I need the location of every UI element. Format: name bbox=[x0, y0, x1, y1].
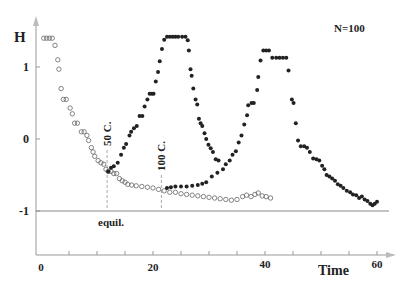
data-point-filled bbox=[185, 185, 189, 189]
data-point-open bbox=[156, 187, 160, 191]
data-point-open bbox=[68, 106, 72, 110]
data-point-filled bbox=[122, 146, 126, 150]
data-point-open bbox=[224, 197, 228, 201]
data-point-filled bbox=[242, 123, 246, 127]
x-tick-label: 20 bbox=[148, 261, 160, 273]
data-point-filled bbox=[179, 185, 183, 189]
y-axis-arrow-icon bbox=[33, 16, 39, 26]
data-point-filled bbox=[224, 162, 228, 166]
data-point-filled bbox=[333, 179, 337, 183]
data-point-open bbox=[151, 186, 155, 190]
data-point-open bbox=[235, 197, 239, 201]
data-point-filled bbox=[256, 75, 260, 79]
data-point-filled bbox=[322, 167, 326, 171]
data-point-open bbox=[229, 198, 233, 202]
data-point-filled bbox=[221, 167, 225, 171]
data-point-filled bbox=[143, 105, 147, 109]
data-point-open bbox=[93, 154, 97, 158]
y-ticks: 10-1 bbox=[19, 60, 40, 218]
data-point-filled bbox=[173, 185, 177, 189]
data-point-open bbox=[91, 150, 95, 154]
data-point-filled bbox=[206, 143, 210, 147]
data-point-open bbox=[64, 97, 68, 101]
data-point-filled bbox=[112, 164, 116, 168]
marker-label: 100 C. bbox=[155, 141, 167, 171]
data-point-open bbox=[140, 184, 144, 188]
data-point-filled bbox=[246, 103, 250, 107]
data-point-filled bbox=[267, 48, 271, 52]
temperature-markers: 50 C.100 C. bbox=[101, 121, 167, 208]
data-point-filled bbox=[191, 87, 195, 91]
data-point-filled bbox=[284, 56, 288, 60]
data-point-filled bbox=[190, 74, 194, 78]
data-point-filled bbox=[160, 47, 164, 51]
data-point-filled bbox=[308, 150, 312, 154]
data-point-filled bbox=[194, 97, 198, 101]
data-point-filled bbox=[237, 141, 241, 145]
data-point-filled bbox=[231, 153, 235, 157]
data-point-open bbox=[86, 138, 90, 142]
data-point-filled bbox=[351, 192, 355, 196]
data-point-open bbox=[114, 171, 118, 175]
data-point-filled bbox=[252, 101, 256, 105]
data-point-filled bbox=[156, 70, 160, 74]
data-point-filled bbox=[255, 88, 259, 92]
data-point-filled bbox=[162, 38, 166, 42]
data-point-filled bbox=[375, 200, 379, 204]
plot: 0204060 10-1 equil. 50 C.100 C. H Time N… bbox=[0, 0, 418, 292]
data-point-filled bbox=[119, 153, 123, 157]
data-point-filled bbox=[129, 130, 133, 134]
data-point-filled bbox=[154, 79, 158, 83]
data-point-filled bbox=[186, 38, 190, 42]
data-point-filled bbox=[305, 146, 309, 150]
data-point-filled bbox=[190, 184, 194, 188]
x-tick-label: 0 bbox=[38, 261, 44, 273]
x-axis-label: Time bbox=[318, 263, 349, 278]
data-point-open bbox=[212, 196, 216, 200]
data-point-filled bbox=[296, 138, 300, 142]
data-point-open bbox=[56, 58, 60, 62]
x-axis-arrow-icon bbox=[386, 252, 396, 258]
data-point-open bbox=[53, 43, 57, 47]
equilibrium-label: equil. bbox=[98, 216, 124, 228]
data-point-filled bbox=[187, 48, 191, 52]
data-point-filled bbox=[195, 102, 199, 106]
data-point-filled bbox=[204, 180, 208, 184]
data-point-filled bbox=[287, 69, 291, 73]
data-point-open bbox=[57, 67, 61, 71]
data-point-filled bbox=[210, 174, 214, 178]
data-point-filled bbox=[245, 113, 249, 117]
data-point-filled bbox=[203, 131, 207, 135]
data-point-open bbox=[184, 192, 188, 196]
data-point-filled bbox=[116, 161, 120, 165]
data-point-filled bbox=[152, 92, 156, 96]
data-point-filled bbox=[228, 159, 232, 163]
data-point-filled bbox=[127, 133, 131, 137]
y-tick-label: 0 bbox=[23, 132, 29, 146]
data-point-filled bbox=[135, 124, 139, 128]
data-point-filled bbox=[211, 150, 215, 154]
x-tick-label: 40 bbox=[260, 258, 272, 270]
y-axis-label: H bbox=[14, 29, 26, 45]
data-point-open bbox=[85, 133, 89, 137]
data-point-open bbox=[218, 197, 222, 201]
data-point-open bbox=[244, 193, 248, 197]
data-point-open bbox=[75, 121, 79, 125]
data-point-filled bbox=[158, 59, 162, 63]
data-point-filled bbox=[200, 182, 204, 186]
data-point-filled bbox=[270, 56, 274, 60]
data-point-filled bbox=[311, 156, 315, 160]
data-point-filled bbox=[354, 193, 358, 197]
data-point-open bbox=[70, 112, 74, 116]
data-point-filled bbox=[215, 171, 219, 175]
data-point-filled bbox=[259, 59, 263, 63]
data-point-filled bbox=[196, 183, 200, 187]
data-point-filled bbox=[176, 35, 180, 39]
y-tick-label: 1 bbox=[23, 60, 29, 74]
data-point-filled bbox=[360, 195, 364, 199]
x-tick-label: 60 bbox=[372, 258, 384, 270]
data-point-filled bbox=[140, 114, 144, 118]
data-point-filled bbox=[106, 169, 110, 173]
data-point-filled bbox=[234, 149, 238, 153]
data-point-filled bbox=[124, 142, 128, 146]
